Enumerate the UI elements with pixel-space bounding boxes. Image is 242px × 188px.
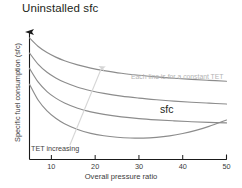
x-axis-tick-label: 20: [91, 162, 99, 171]
x-axis-tick-label: 50: [222, 162, 230, 171]
data-curve: [30, 84, 227, 138]
x-axis-tick-label: 30: [135, 162, 143, 171]
annotation-sfc: sfc: [160, 103, 173, 115]
data-curves: [30, 38, 227, 138]
x-axis-tick-label: 40: [179, 162, 187, 171]
x-axis-ticks: [51, 155, 226, 160]
tet-increasing-arrow: [70, 67, 102, 145]
chart-plot-area: [0, 0, 242, 188]
annotation-constant-tet: Each line is for a constant TET: [131, 73, 223, 80]
chart-figure: Uninstalled sfc Specific fuel consumptio…: [0, 0, 242, 188]
x-axis-tick-label: 10: [47, 162, 55, 171]
annotation-tet-increasing: TET increasing: [31, 144, 79, 153]
direction-arrow: [70, 67, 102, 145]
